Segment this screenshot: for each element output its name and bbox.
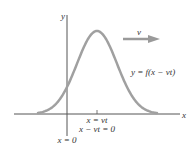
function-label: y = f(x − vt)	[130, 67, 175, 77]
y-axis-label: y	[60, 11, 65, 21]
velocity-label: v	[137, 27, 141, 37]
velocity-arrow	[123, 35, 160, 43]
x-axis-label: x	[181, 110, 186, 120]
peak-condition-label: x − vt = 0	[78, 124, 116, 134]
origin-label: x = 0	[56, 135, 77, 145]
wave-pulse-diagram: y x v y = f(x − vt) x = vt x − vt = 0 x …	[0, 0, 196, 154]
